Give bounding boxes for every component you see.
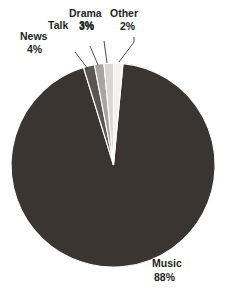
label-other-value: 2% [120,20,136,32]
label-music-value: 88% [154,271,176,283]
label-news-name: News [20,30,48,42]
pie-chart-canvas: News 4% Talk 3% Drama 3% Other 2% Music … [0,0,227,292]
leader-line-talk [90,46,98,65]
leader-line-news [75,52,88,69]
label-talk-name: Talk [48,19,68,31]
label-drama-name: Drama [69,7,102,19]
label-music-name: Music [152,257,182,269]
leader-line-drama [104,41,107,63]
leader-line-other [119,37,134,62]
label-other-name: Other [110,7,138,19]
label-news-value: 4% [27,43,43,55]
label-drama-value: 3% [79,20,95,32]
pie-chart: News 4% Talk 3% Drama 3% Other 2% Music … [0,0,227,292]
